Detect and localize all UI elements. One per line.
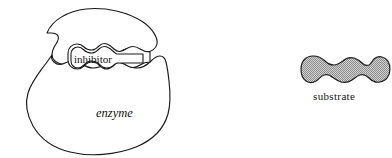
inhibitor-label: inhibitor: [74, 53, 112, 65]
enzyme-label: enzyme: [96, 106, 133, 120]
substrate-molecule: [301, 56, 390, 83]
substrate-group: substrate: [301, 56, 390, 102]
enzyme-group: inhibitor enzyme: [27, 9, 170, 155]
diagram-canvas: inhibitor enzyme substrate: [0, 0, 392, 158]
enzyme-lower-outline: [27, 55, 170, 155]
enzyme-inhibition-figure: inhibitor enzyme substrate: [0, 0, 392, 158]
substrate-label: substrate: [313, 90, 355, 102]
